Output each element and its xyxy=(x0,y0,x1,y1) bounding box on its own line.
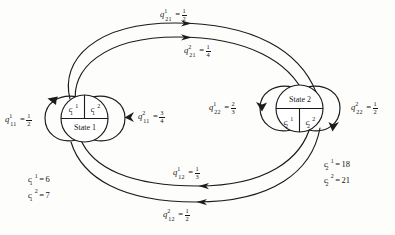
q12-1-sub: 12 xyxy=(178,174,184,180)
q11-1-denominator: 2 xyxy=(26,121,31,128)
cost-c11-equals: = xyxy=(39,174,44,184)
q12-2-sup: 2 xyxy=(167,208,170,214)
label-loop-state2-action1: q122=23 xyxy=(209,101,236,115)
c11-sub: 1 xyxy=(70,110,73,116)
cost-c12-sup: 2 xyxy=(35,188,38,194)
node-state2-cell-c22: c22 xyxy=(300,116,321,128)
q12-1-denominator: 3 xyxy=(195,174,200,181)
cost-c22-sup: 2 xyxy=(331,173,334,179)
q11-1-equals: = xyxy=(20,114,25,124)
q12-1-sup: 1 xyxy=(177,166,180,172)
node-state1-cell-c12: c12 xyxy=(85,103,106,115)
costs-state2-row-2: c22=21 xyxy=(324,173,350,189)
label-edge-1-to-2-action2: q221=14 xyxy=(184,44,211,58)
q11-2-denominator: 4 xyxy=(159,118,164,125)
q11-1-sup: 1 xyxy=(9,113,12,119)
node-state2-cell-c21: c21 xyxy=(278,116,299,128)
q12-1-fraction: 13 xyxy=(195,166,200,180)
cost-c21-sub: 2 xyxy=(326,165,329,171)
q22-2-sub: 22 xyxy=(356,109,362,115)
loop-state1-action2-arrowhead xyxy=(125,112,135,122)
q21-2-fraction: 14 xyxy=(206,44,211,58)
c12-sup: 2 xyxy=(97,103,100,109)
q21-1-denominator: 2 xyxy=(182,16,187,23)
q21-1-sup: 1 xyxy=(164,8,167,14)
q11-1-fraction: 12 xyxy=(26,113,31,127)
diagram-canvas xyxy=(0,0,395,235)
cost-c22-sub: 2 xyxy=(326,181,329,187)
cost-c11-sub: 1 xyxy=(30,180,33,186)
q22-2-sup: 2 xyxy=(355,101,358,107)
c22-sub: 2 xyxy=(307,123,310,129)
cost-c12-equals: = xyxy=(39,190,44,200)
cost-c22-equals: = xyxy=(335,175,340,185)
cost-c21-value: 18 xyxy=(342,159,351,169)
cost-c21-equals: = xyxy=(335,159,340,169)
label-loop-state1-action1: q111=12 xyxy=(5,113,32,127)
q22-1-sub: 22 xyxy=(214,109,220,115)
q22-2-denominator: 2 xyxy=(373,109,378,116)
q11-2-equals: = xyxy=(153,111,158,121)
c21-sub: 2 xyxy=(285,123,288,129)
label-loop-state1-action2: q211=34 xyxy=(138,110,165,124)
loop-state1-action1-arrowhead xyxy=(48,97,59,106)
state-transition-diagram: c11 c12 State 1 State 2 c21 c22 q121=12 … xyxy=(0,0,395,235)
c22-sup: 2 xyxy=(312,116,315,122)
cost-c22-value: 21 xyxy=(342,175,351,185)
cost-c11-value: 6 xyxy=(46,174,50,184)
c12-sub: 1 xyxy=(92,110,95,116)
c21-sup: 1 xyxy=(290,116,293,122)
costs-state2-row-1: c21=18 xyxy=(324,157,350,173)
costs-state1: c11=6 c12=7 xyxy=(28,172,50,204)
q22-1-denominator: 3 xyxy=(231,109,236,116)
q21-1-fraction: 12 xyxy=(182,8,187,22)
q22-2-fraction: 12 xyxy=(373,101,378,115)
q11-1-sub: 11 xyxy=(10,121,16,127)
q11-2-sup: 2 xyxy=(142,110,145,116)
cost-c11-sup: 1 xyxy=(35,173,38,179)
costs-state1-row-1: c11=6 xyxy=(28,172,50,188)
cost-c12-value: 7 xyxy=(46,190,50,200)
q12-2-fraction: 12 xyxy=(185,208,190,222)
q12-2-sub: 12 xyxy=(168,216,174,222)
node-state1-cell-c11: c11 xyxy=(63,103,84,115)
q21-1-equals: = xyxy=(175,9,180,19)
node-state2-label: State 2 xyxy=(277,96,323,104)
q22-1-sup: 1 xyxy=(213,101,216,107)
loop-state2-action1-arrowhead xyxy=(256,102,267,112)
label-edge-2-to-1-action1: q112=13 xyxy=(173,166,200,180)
label-edge-2-to-1-action2: q212=12 xyxy=(163,208,190,222)
cost-c21-sup: 1 xyxy=(331,158,334,164)
q21-1-sub: 21 xyxy=(165,16,171,22)
label-loop-state2-action2: q222=12 xyxy=(351,101,378,115)
node-state1-label: State 1 xyxy=(62,124,108,132)
q22-2-equals: = xyxy=(366,102,371,112)
q21-2-sup: 2 xyxy=(188,44,191,50)
c11-sup: 1 xyxy=(75,103,78,109)
cost-c12-sub: 1 xyxy=(30,196,33,202)
costs-state1-row-2: c12=7 xyxy=(28,188,50,204)
label-edge-1-to-2-action1: q121=12 xyxy=(160,8,187,22)
q12-2-denominator: 2 xyxy=(185,216,190,223)
edge-1-to-2-action1-path xyxy=(68,23,316,99)
q22-1-equals: = xyxy=(224,102,229,112)
costs-state2: c21=18 c22=21 xyxy=(324,157,350,189)
q11-2-sub: 11 xyxy=(143,118,149,124)
q22-1-fraction: 23 xyxy=(231,101,236,115)
q21-2-sub: 21 xyxy=(189,52,195,58)
q12-2-equals: = xyxy=(178,209,183,219)
q12-1-equals: = xyxy=(188,167,193,177)
q21-2-denominator: 4 xyxy=(206,52,211,59)
q11-2-fraction: 34 xyxy=(159,110,164,124)
q21-2-equals: = xyxy=(199,45,204,55)
